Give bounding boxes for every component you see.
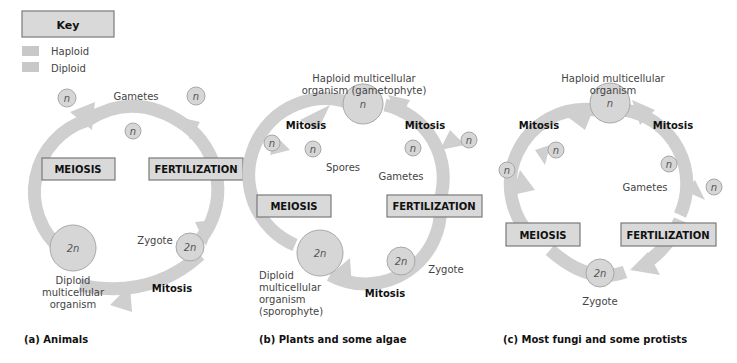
spores-label: Spores	[326, 162, 360, 173]
2n-label: 2n	[184, 242, 197, 253]
fertilization-label: FERTILIZATION	[626, 230, 709, 241]
key-legend: Key Haploid Diploid	[22, 11, 114, 74]
diploid-organism-label: Diploid	[56, 275, 91, 286]
fertilization-label: FERTILIZATION	[154, 164, 237, 175]
mitosis-left-label: Mitosis	[519, 120, 559, 131]
n-label: n	[466, 135, 472, 146]
panel-caption: (c) Most fungi and some protists	[503, 334, 687, 345]
haploid-organism-label: organism (gametophyte)	[302, 85, 427, 96]
gametes-label: Gametes	[622, 182, 667, 193]
mitosis-right-label: Mitosis	[405, 120, 445, 131]
haploid-organism-label: Haploid multicellular	[312, 73, 416, 84]
2n-label: 2n	[314, 248, 327, 259]
n-label: n	[193, 91, 199, 102]
key-title: Key	[57, 19, 80, 32]
mitosis-right-label: Mitosis	[653, 120, 693, 131]
n-label: n	[130, 126, 136, 137]
diploid-organism-label: (sporophyte)	[259, 306, 323, 317]
mitosis-bottom-label: Mitosis	[365, 288, 405, 299]
2n-label: 2n	[67, 243, 80, 254]
n-label: n	[269, 138, 275, 149]
n-label: n	[607, 98, 613, 109]
meiosis-label: MEIOSIS	[270, 201, 317, 212]
diploid-organism-label: multicellular	[42, 287, 105, 298]
zygote-label: Zygote	[582, 296, 617, 307]
cycle-arrow-top	[88, 106, 185, 125]
2n-label: 2n	[594, 268, 607, 279]
n-label: n	[64, 93, 70, 104]
panel-caption: (a) Animals	[24, 334, 88, 345]
panel-animals: n n n Gametes MEIOSIS FERTILIZATION 2n 2…	[24, 87, 243, 345]
haploid-organism-label: organism	[590, 85, 637, 96]
life-cycle-diagram: Key Haploid Diploid n n n Gametes MEIOSI…	[0, 0, 737, 363]
meiosis-label: MEIOSIS	[54, 164, 101, 175]
mitosis-label: Mitosis	[152, 283, 192, 294]
panel-caption: (b) Plants and some algae	[259, 334, 407, 345]
gametes-label: Gametes	[378, 171, 423, 182]
gametes-label: Gametes	[113, 91, 158, 102]
diploid-organism-label: organism	[259, 294, 306, 305]
fertilization-label: FERTILIZATION	[392, 201, 475, 212]
zygote-label: Zygote	[428, 264, 463, 275]
haploid-organism-label: Haploid multicellular	[561, 73, 665, 84]
n-label: n	[666, 159, 672, 170]
n-label: n	[410, 143, 416, 154]
diploid-organism-label: multicellular	[259, 282, 322, 293]
diploid-organism-label: Diploid	[259, 270, 294, 281]
key-diploid-label: Diploid	[51, 63, 86, 74]
panel-fungi: n n n n n Haploid multicellular organism…	[499, 73, 722, 345]
meiosis-label: MEIOSIS	[519, 230, 566, 241]
zygote-label: Zygote	[137, 235, 172, 246]
n-label: n	[504, 165, 510, 176]
diploid-organism-label: organism	[50, 299, 97, 310]
haploid-swatch	[22, 46, 39, 56]
key-haploid-label: Haploid	[51, 46, 89, 57]
n-label: n	[360, 99, 366, 110]
2n-label: 2n	[395, 256, 408, 267]
mitosis-left-label: Mitosis	[286, 120, 326, 131]
diploid-swatch	[22, 62, 39, 72]
n-label: n	[711, 182, 717, 193]
panel-plants: n n n n n Haploid multicellular organism…	[249, 73, 482, 345]
n-label: n	[553, 145, 559, 156]
n-label: n	[310, 144, 316, 155]
